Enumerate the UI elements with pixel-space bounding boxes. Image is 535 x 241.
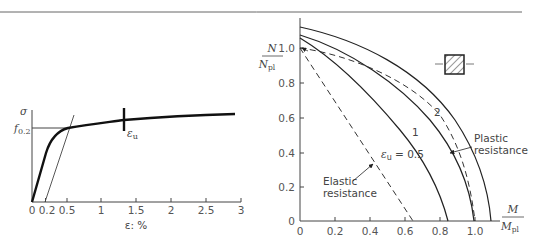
- label-elastic-2: resistance: [323, 187, 377, 199]
- tick-label: 0: [288, 215, 295, 227]
- tick-label: 1.0: [467, 225, 484, 237]
- x-axis-label: M Mpl: [500, 203, 524, 234]
- y-tick-labels: 0 0.2 0.4 0.6 0.8 1.0: [278, 42, 295, 227]
- label-curve-2: 2: [434, 106, 441, 118]
- cross-section-icon: [435, 55, 474, 74]
- stress-strain-chart: 0 0.2 0.5 1 1.5 2 2.5 3 ε: % σ f0.2 εu: [13, 105, 244, 231]
- tick-label: 1: [98, 204, 105, 216]
- tick-label: 1.5: [128, 204, 145, 216]
- arrow-plastic: [450, 147, 472, 153]
- tick-label: 0.2: [278, 181, 295, 193]
- tick-label: 0.6: [397, 225, 414, 237]
- tick-label: 0.4: [362, 225, 379, 237]
- y-ticks: [300, 48, 304, 187]
- interaction-chart: 0 0.2 0.4 0.6 0.8 1.0 0 0.2 0.4 0.6 0.8 …: [258, 18, 528, 237]
- f02-label: f0.2: [13, 122, 31, 136]
- svg-text:N: N: [266, 42, 277, 54]
- label-curve-05: εu = 0.5: [381, 148, 424, 162]
- tick-label: 0.6: [278, 112, 295, 124]
- tick-label: 0.2: [39, 204, 56, 216]
- arrow-elastic: [353, 164, 373, 181]
- label-plastic-1: Plastic: [474, 132, 508, 144]
- tick-label: 3: [238, 204, 245, 216]
- svg-text:Npl: Npl: [258, 58, 276, 72]
- svg-text:M: M: [507, 203, 519, 215]
- x-ticks: [46, 198, 242, 202]
- svg-text:Mpl: Mpl: [500, 220, 520, 234]
- x-axis-label: ε: %: [125, 219, 148, 231]
- x-tick-labels: 0 0.2 0.4 0.6 0.8 1.0: [297, 225, 484, 237]
- figure: 0 0.2 0.5 1 1.5 2 2.5 3 ε: % σ f0.2 εu: [0, 0, 535, 241]
- x-ticks: [335, 217, 475, 221]
- stress-strain-curve: [32, 114, 235, 202]
- tick-label: 2: [168, 204, 175, 216]
- label-elastic-1: Elastic: [323, 175, 357, 187]
- label-curve-1: 1: [412, 126, 419, 138]
- tick-label: 0.8: [278, 77, 295, 89]
- x-tick-labels: 0 0.2 0.5 1 1.5 2 2.5 3: [29, 204, 245, 216]
- eu-label: εu: [127, 127, 138, 141]
- tick-label: 1.0: [278, 42, 295, 54]
- tick-label: 0.5: [59, 204, 76, 216]
- tick-label: 0.8: [432, 225, 449, 237]
- tick-label: 0: [297, 225, 304, 237]
- label-plastic-2: resistance: [474, 144, 528, 156]
- tick-label: 0.2: [327, 225, 344, 237]
- tick-label: 0.4: [278, 147, 295, 159]
- y-axis-label-sigma: σ: [20, 105, 28, 117]
- tick-label: 0: [29, 204, 36, 216]
- tick-label: 2.5: [198, 204, 215, 216]
